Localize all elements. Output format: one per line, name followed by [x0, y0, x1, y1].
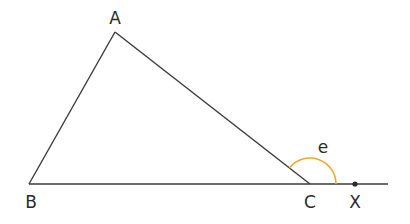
point-x-dot: [352, 181, 357, 186]
label-b: B: [25, 192, 37, 212]
label-x: X: [349, 192, 361, 212]
triangle-diagram: A B C X e: [0, 0, 410, 224]
label-a: A: [109, 8, 121, 28]
side-ab: [29, 32, 115, 184]
exterior-angle-arc: [290, 158, 337, 184]
side-ac: [115, 32, 310, 184]
angle-label-e: e: [318, 137, 328, 157]
label-c: C: [304, 192, 316, 212]
